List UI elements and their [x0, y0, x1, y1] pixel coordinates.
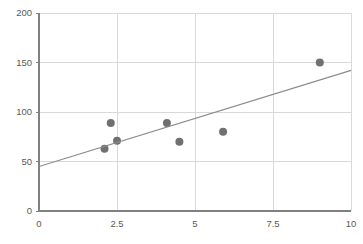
y-axis-tick-label: 50	[21, 156, 32, 167]
x-axis-tick-label: 0	[36, 218, 41, 229]
data-point	[107, 119, 115, 127]
scatter-chart: 05010015020002.557.510	[0, 0, 363, 244]
x-axis-tick-label: 2.5	[110, 218, 123, 229]
y-axis-tick-label: 100	[16, 106, 32, 117]
data-point	[316, 59, 324, 67]
y-axis-tick-label: 200	[16, 7, 32, 18]
chart-canvas: 05010015020002.557.510	[0, 0, 363, 244]
x-axis-tick-label: 10	[346, 218, 357, 229]
y-axis-tick-label: 0	[27, 205, 32, 216]
y-axis-tick-label: 150	[16, 57, 32, 68]
data-point	[219, 128, 227, 136]
x-axis-tick-label: 7.5	[266, 218, 279, 229]
x-axis-tick-label: 5	[192, 218, 197, 229]
data-point	[175, 138, 183, 146]
